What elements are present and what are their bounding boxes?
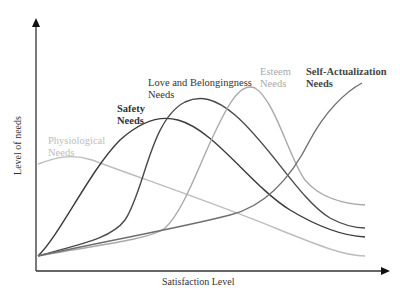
- label-physiological-line2: Needs: [48, 147, 105, 159]
- curve-esteem: [38, 87, 365, 256]
- y-axis-title: Level of needs: [12, 116, 23, 175]
- label-love: Love and Belongingness Needs: [148, 77, 252, 101]
- label-safety: Safety Needs: [117, 103, 145, 127]
- x-axis-title: Satisfaction Level: [162, 276, 234, 287]
- label-esteem-line2: Needs: [260, 78, 291, 90]
- label-self-line2: Needs: [306, 78, 387, 90]
- y-axis-arrow-icon: [32, 18, 40, 27]
- label-self-actualization: Self-Actualization Needs: [306, 66, 387, 90]
- label-esteem-line1: Esteem: [260, 66, 291, 78]
- label-esteem: Esteem Needs: [260, 66, 291, 90]
- curve-self-actualization: [38, 83, 362, 256]
- curve-love: [38, 98, 365, 256]
- label-safety-line2: Needs: [117, 115, 145, 127]
- label-safety-line1: Safety: [117, 103, 145, 115]
- label-self-line1: Self-Actualization: [306, 66, 387, 78]
- x-axis-arrow-icon: [381, 267, 390, 275]
- label-physiological: Physiological Needs: [48, 135, 105, 159]
- label-love-line2: Needs: [148, 89, 252, 101]
- label-physiological-line1: Physiological: [48, 135, 105, 147]
- label-love-line1: Love and Belongingness: [148, 77, 252, 89]
